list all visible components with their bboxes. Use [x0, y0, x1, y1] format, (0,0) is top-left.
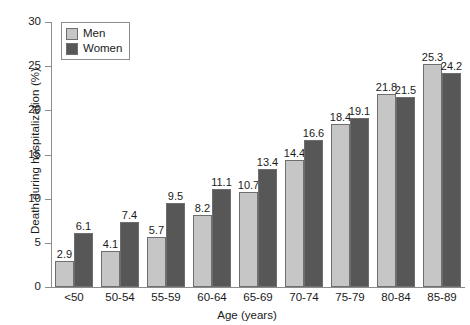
bar-value-label: 9.5	[161, 191, 190, 202]
y-tick-label: 0	[13, 281, 41, 293]
y-tick-label: 30	[13, 16, 41, 28]
x-axis-title: Age (years)	[12, 309, 470, 321]
bar-value-label: 6.1	[69, 221, 98, 232]
x-tick-label: 80-84	[373, 292, 419, 304]
x-tick-label: 85-89	[419, 292, 465, 304]
bar-women-85-89	[442, 73, 461, 287]
bar-value-label: 11.1	[207, 177, 236, 188]
bar-men-65-69	[239, 192, 258, 287]
bar-men-75-79	[331, 124, 350, 287]
chart-figure: Death during hospitalization (%) 0510152…	[0, 0, 470, 325]
x-tick-label: 55-59	[143, 292, 189, 304]
x-tick-label: 75-79	[327, 292, 373, 304]
bar-value-label: 16.6	[299, 128, 328, 139]
bar-men-<50	[55, 261, 74, 287]
bar-women-75-79	[350, 118, 369, 287]
x-tick-label: 70-74	[281, 292, 327, 304]
bar-value-label: 13.4	[253, 157, 282, 168]
bar-women-60-64	[212, 189, 231, 287]
bar-women-70-74	[304, 140, 323, 287]
x-axis-line	[51, 287, 465, 288]
bar-men-55-59	[147, 237, 166, 287]
bar-value-label: 24.2	[437, 61, 466, 72]
x-tick-label: 50-54	[97, 292, 143, 304]
bar-value-label: 21.5	[391, 85, 420, 96]
y-tick-label: 15	[13, 149, 41, 161]
x-tick-label: 65-69	[235, 292, 281, 304]
bar-men-60-64	[193, 215, 212, 287]
x-tick-label: 60-64	[189, 292, 235, 304]
bar-men-50-54	[101, 251, 120, 287]
y-tick-label: 20	[13, 104, 41, 116]
bar-women-50-54	[120, 222, 139, 287]
y-tick-mark	[45, 287, 51, 288]
bar-men-80-84	[377, 94, 396, 287]
bar-women-<50	[74, 233, 93, 287]
plot-area: 2.96.14.17.45.79.58.211.110.713.414.416.…	[51, 22, 465, 287]
bar-value-label: 19.1	[345, 106, 374, 117]
y-tick-label: 5	[13, 237, 41, 249]
bar-women-80-84	[396, 97, 415, 287]
y-tick-label: 25	[13, 60, 41, 72]
y-tick-label: 10	[13, 193, 41, 205]
bar-value-label: 7.4	[115, 210, 144, 221]
bar-women-65-69	[258, 169, 277, 287]
bar-women-55-59	[166, 203, 185, 287]
bar-men-70-74	[285, 160, 304, 287]
bar-men-85-89	[423, 64, 442, 287]
x-tick-label: <50	[51, 292, 97, 304]
